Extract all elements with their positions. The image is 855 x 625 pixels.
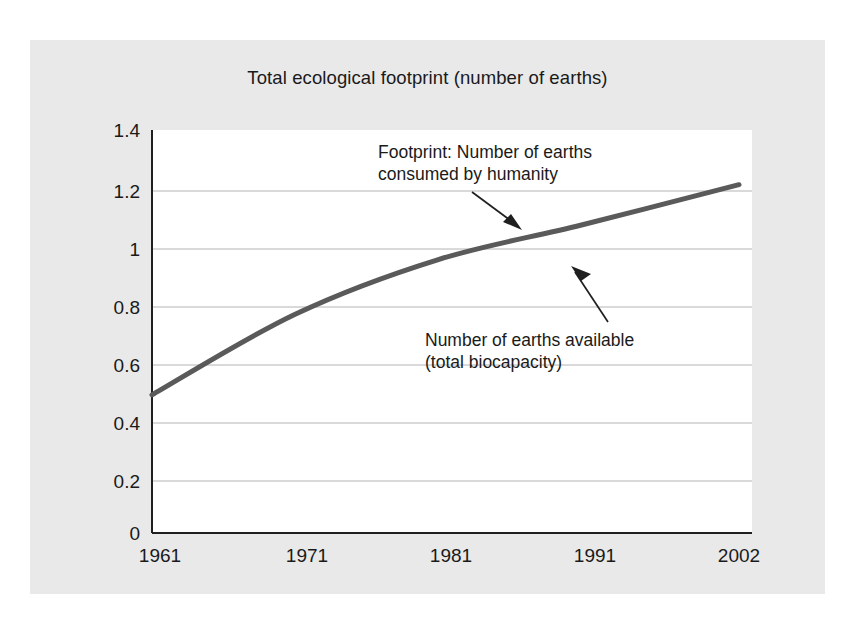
xtick-label-2002: 2002: [718, 545, 760, 566]
xtick-label-1991: 1991: [574, 545, 616, 566]
ytick-label-1.4: 1.4: [114, 120, 141, 141]
ytick-label-0.2: 0.2: [114, 471, 140, 492]
ytick-label-0.8: 0.8: [114, 297, 140, 318]
ytick-label-0.4: 0.4: [114, 413, 141, 434]
figure-panel: Total ecological footprint (number of ea…: [30, 40, 825, 594]
biocapacity-annotation-line-1: Number of earths available: [425, 330, 634, 350]
ecological-footprint-line-chart: 1.4 1.2 1 0.8 0.6 0.4 0.2 0 1961 1971 19…: [30, 40, 825, 594]
footprint-annotation-line-1: Footprint: Number of earths: [378, 142, 592, 162]
y-axis-tick-labels: 1.4 1.2 1 0.8 0.6 0.4 0.2 0: [114, 120, 141, 544]
footprint-annotation-line-2: consumed by humanity: [378, 164, 558, 184]
xtick-label-1961: 1961: [139, 545, 181, 566]
x-axis-tick-labels: 1961 1971 1981 1991 2002: [139, 545, 760, 566]
ytick-label-0.6: 0.6: [114, 355, 140, 376]
xtick-label-1981: 1981: [430, 545, 472, 566]
ytick-label-1.2: 1.2: [114, 181, 140, 202]
ytick-label-0: 0: [129, 523, 140, 544]
xtick-label-1971: 1971: [286, 545, 328, 566]
biocapacity-annotation-line-2: (total biocapacity): [425, 352, 562, 372]
ytick-label-1: 1: [129, 239, 140, 260]
